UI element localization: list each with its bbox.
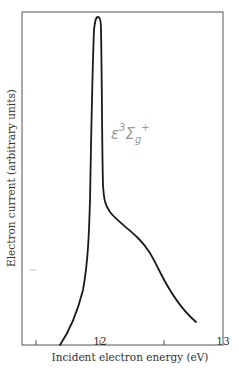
annotation-multiplicity: 3 [119, 122, 125, 133]
state-annotation: ε3Σg+ [111, 124, 150, 145]
data-curve [60, 17, 196, 345]
plot-frame [22, 12, 223, 345]
annotation-epsilon: ε [111, 125, 119, 143]
x-axis-label: Incident electron energy (eV) [40, 351, 220, 363]
tick-label-13: 13 [213, 335, 233, 347]
annotation-subscript: g [135, 134, 141, 145]
tick-label-12: 12 [90, 335, 110, 347]
annotation-sigma: Σ [125, 125, 134, 143]
y-axis-label: Electron current (arbitrary units) [5, 43, 17, 313]
chart-plot [0, 0, 239, 371]
annotation-plus: + [141, 122, 149, 133]
